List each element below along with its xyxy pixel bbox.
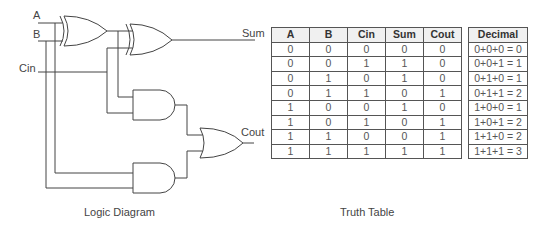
label-sum: Sum [242,27,265,39]
table-row: 0+0+1 = 1 [469,57,528,72]
cell: 1 [386,71,424,86]
cell: 0 [386,130,424,145]
table-row: 0+1+0 = 1 [469,71,528,86]
cell: 1 [386,57,424,72]
cell: 1 [272,130,310,145]
cell: 0 [310,100,348,115]
table-row: 1+0+1 = 2 [469,115,528,130]
cell: 1 [386,100,424,115]
cell: 0 [310,115,348,130]
cell: 1+1+1 = 3 [469,144,528,159]
cell: 0 [386,86,424,101]
cell: 1+1+0 = 2 [469,130,528,145]
cell: 0 [310,42,348,57]
cell: 0+0+1 = 1 [469,57,528,72]
header-sum: Sum [386,28,424,43]
cell: 0 [386,42,424,57]
wire-cin-to-and1 [107,72,133,113]
wire-and1-to-or [175,105,203,135]
cell: 0 [424,71,462,86]
truth-table: A B Cin Sum Cout 00000 00110 01010 01101… [271,27,462,159]
wire-xor1-to-and1 [118,31,133,97]
cell: 0+1+1 = 2 [469,86,528,101]
label-cin: Cin [19,62,36,74]
cell: 0 [310,57,348,72]
header-b: B [310,28,348,43]
cell: 1 [272,144,310,159]
cell: 0 [386,115,424,130]
cell: 0+0+0 = 0 [469,42,528,57]
cell: 0 [348,100,386,115]
table-row: 1+0+0 = 1 [469,100,528,115]
table-row: 00000 [272,42,462,57]
label-a: A [33,9,40,21]
table-row: 00110 [272,57,462,72]
logic-diagram-caption: Logic Diagram [84,206,155,218]
cell: 0 [272,57,310,72]
and-gate-1 [133,90,175,120]
or-gate [200,128,243,158]
wire-and2-to-or [175,151,203,178]
cell: 1 [386,144,424,159]
cell: 0 [424,100,462,115]
cell: 1+0+0 = 1 [469,100,528,115]
truth-table-header: A B Cin Sum Cout [272,28,462,43]
cell: 1 [424,130,462,145]
cell: 1 [310,86,348,101]
header-cout: Cout [424,28,462,43]
table-row: 01010 [272,71,462,86]
cell: 0 [272,71,310,86]
cell: 0 [348,71,386,86]
cell: 1 [272,100,310,115]
table-row: 10010 [272,100,462,115]
truth-table-caption: Truth Table [340,206,394,218]
table-row: 1+1+0 = 2 [469,130,528,145]
cell: 1 [424,115,462,130]
cell: 0+1+0 = 1 [469,71,528,86]
table-row: 0+0+0 = 0 [469,42,528,57]
wire-cin-to-xor2 [107,48,133,72]
cell: 1 [310,144,348,159]
decimal-table: Decimal 0+0+0 = 0 0+0+1 = 1 0+1+0 = 1 0+… [468,27,528,159]
cell: 1 [348,115,386,130]
table-row: 11001 [272,130,462,145]
header-decimal: Decimal [469,28,528,43]
wire-b-to-and2 [46,41,133,188]
xor-gate-2 [126,24,172,55]
header-a: A [272,28,310,43]
xor-gate-1 [60,16,107,46]
table-row: 10101 [272,115,462,130]
cell: 1 [348,144,386,159]
table-row: 11111 [272,144,462,159]
cell: 1 [424,144,462,159]
cell: 0 [424,42,462,57]
cell: 0 [272,42,310,57]
cell: 0 [272,86,310,101]
cell: 0 [424,57,462,72]
cell: 1 [424,86,462,101]
cell: 1 [348,57,386,72]
cell: 1 [348,86,386,101]
cell: 1 [310,71,348,86]
cell: 0 [348,42,386,57]
label-cout: Cout [241,126,264,138]
decimal-table-header: Decimal [469,28,528,43]
cell: 1 [272,115,310,130]
cell: 1+0+1 = 2 [469,115,528,130]
table-row: 01101 [272,86,462,101]
label-b: B [33,28,40,40]
table-row: 0+1+1 = 2 [469,86,528,101]
and-gate-2 [133,163,175,193]
cell: 1 [310,130,348,145]
logic-diagram [0,0,270,228]
table-row: 1+1+1 = 3 [469,144,528,159]
header-cin: Cin [348,28,386,43]
cell: 0 [348,130,386,145]
